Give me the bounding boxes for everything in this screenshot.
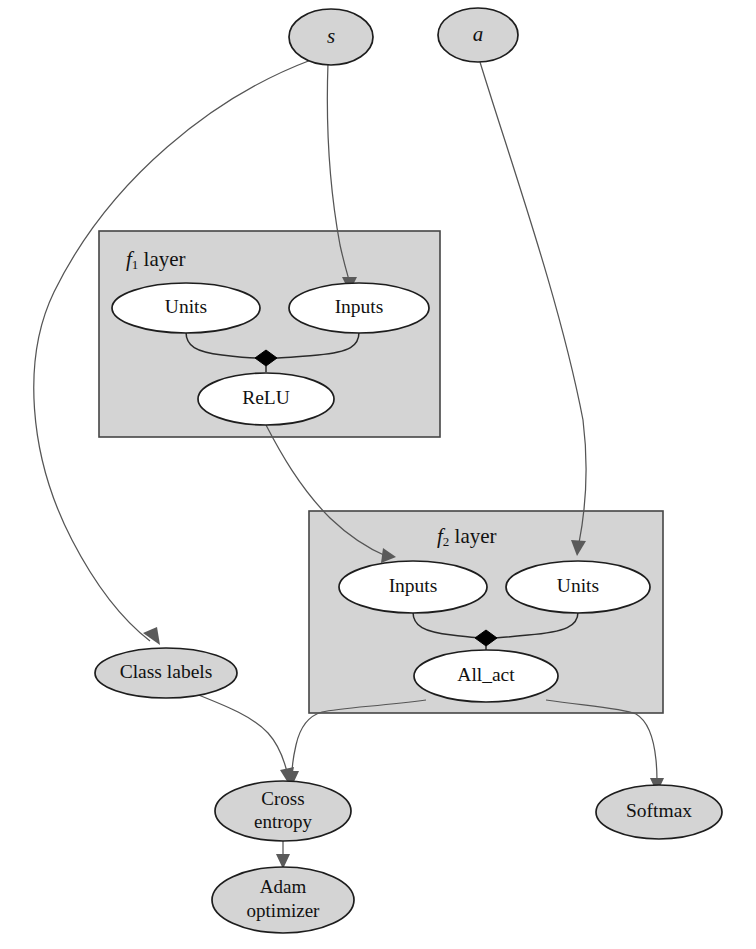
node-f1-relu[interactable]: ReLU xyxy=(198,373,334,425)
node-class-labels[interactable]: Class labels xyxy=(95,648,237,698)
node-f2-units-label: Units xyxy=(557,575,599,596)
node-state-s[interactable]: s xyxy=(289,9,373,65)
node-f1-inputs[interactable]: Inputs xyxy=(289,283,429,333)
node-f2-inputs[interactable]: Inputs xyxy=(339,561,487,613)
node-softmax[interactable]: Softmax xyxy=(596,785,722,839)
diagram-canvas: f1 layer f2 layer xyxy=(0,0,756,949)
node-cross-entropy-label-line1: Cross xyxy=(261,788,304,809)
node-f1-units[interactable]: Units xyxy=(112,283,260,333)
node-f1-relu-label: ReLU xyxy=(242,387,290,408)
edge-a-to-f2-units xyxy=(480,62,586,556)
edge-class-labels-to-cross-entropy xyxy=(196,694,294,786)
computation-graph: f1 layer f2 layer xyxy=(0,0,756,949)
arrowhead-class-labels xyxy=(143,627,160,645)
node-f2-inputs-label: Inputs xyxy=(389,575,438,596)
node-cross-entropy-label-line2: entropy xyxy=(254,811,313,832)
node-f1-units-label: Units xyxy=(165,296,207,317)
node-adam-optimizer-label-line1: Adam xyxy=(260,876,307,897)
node-class-labels-label: Class labels xyxy=(120,661,213,682)
node-action-a[interactable]: a xyxy=(438,8,518,62)
edge-a-to-f2-units-line xyxy=(480,62,586,543)
node-action-a-label: a xyxy=(473,22,484,46)
node-state-s-label: s xyxy=(327,24,335,48)
node-cross-entropy[interactable]: Cross entropy xyxy=(215,781,351,841)
node-f2-allact-label: All_act xyxy=(457,664,515,685)
edge-cross-entropy-to-adam xyxy=(276,841,290,869)
node-f2-units[interactable]: Units xyxy=(506,561,650,613)
node-adam-optimizer-label-line2: optimizer xyxy=(247,900,320,921)
edge-allact-to-softmax xyxy=(546,700,664,793)
node-f1-inputs-label: Inputs xyxy=(335,296,384,317)
edge-class-labels-to-cross-entropy-line xyxy=(196,694,287,772)
node-softmax-label: Softmax xyxy=(626,800,692,821)
node-adam-optimizer[interactable]: Adam optimizer xyxy=(212,867,354,933)
node-f2-allact[interactable]: All_act xyxy=(414,650,558,702)
